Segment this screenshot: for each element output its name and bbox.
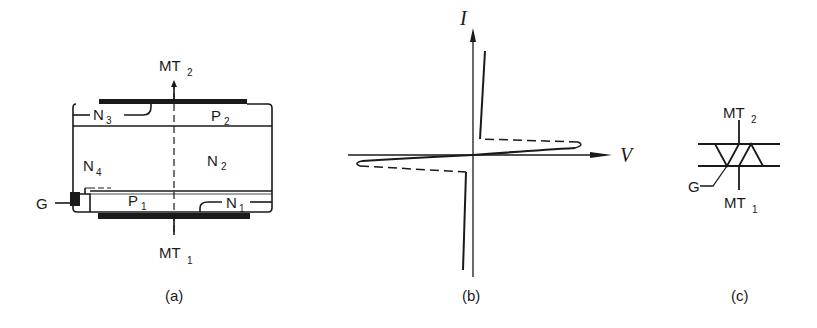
region-p1-sub: 1	[141, 201, 147, 212]
q1-breakover-turn	[575, 142, 581, 148]
region-n1: N	[226, 194, 237, 211]
panel-c-labels: MT 2 MT 1 G (c)	[688, 104, 758, 304]
gate-terminal-line	[700, 166, 727, 186]
region-n3: N	[93, 106, 104, 123]
n1-boundary-left	[200, 202, 222, 212]
triac-figure: MT 2 MT 1 G N 3 P 2 N 4 N 2 P 1 N 1 (a)	[0, 0, 817, 328]
symbol-mt1-sub: 1	[752, 204, 758, 215]
mt2-sub: 2	[187, 67, 193, 78]
region-n2: N	[207, 152, 218, 169]
region-p1: P	[128, 192, 138, 209]
q1-negative-resistance	[480, 139, 578, 142]
q3-negative-resistance	[360, 166, 466, 172]
mt2-label: MT	[159, 57, 181, 74]
mt2-electrode	[99, 99, 247, 104]
region-n4: N	[83, 157, 94, 174]
symbol-mt2-sub: 2	[751, 114, 757, 125]
caption-a: (a)	[165, 287, 183, 304]
v-axis-arrow-icon	[590, 152, 612, 158]
right-diode-triangle	[739, 144, 763, 166]
q1-on-state	[480, 51, 485, 139]
panel-b-iv-curve	[348, 28, 612, 277]
region-p2: P	[211, 107, 221, 124]
gate-contact	[70, 192, 80, 206]
symbol-mt1-label: MT	[724, 194, 746, 211]
gate-label: G	[36, 195, 48, 212]
region-n4-sub: 4	[96, 167, 102, 178]
symbol-gate-label: G	[688, 178, 700, 195]
q1-blocking-curve	[473, 148, 575, 155]
left-diode-triangle	[715, 144, 739, 166]
region-n1-sub: 1	[239, 203, 245, 214]
caption-c: (c)	[731, 287, 749, 304]
region-n2-sub: 2	[221, 161, 227, 172]
mt2-arrow-icon	[171, 80, 177, 87]
q3-breakover-turn	[357, 161, 362, 166]
mt1-sub: 1	[187, 255, 193, 266]
v-axis-label: V	[620, 144, 635, 166]
region-p2-sub: 2	[224, 116, 230, 127]
panel-c-triac-symbol	[698, 120, 780, 190]
mt1-label: MT	[159, 244, 181, 261]
q3-on-state	[463, 172, 466, 270]
i-axis-label: I	[459, 7, 468, 29]
panel-a-labels: MT 2 MT 1 G N 3 P 2 N 4 N 2 P 1 N 1 (a)	[36, 57, 245, 304]
region-n3-sub: 3	[106, 115, 112, 126]
n3-boundary-right	[124, 104, 151, 115]
i-axis-arrow-icon	[470, 28, 476, 42]
caption-b: (b)	[462, 287, 480, 304]
q3-blocking-curve	[362, 155, 473, 161]
gate-p1-boundary	[80, 194, 90, 212]
symbol-mt2-label: MT	[723, 104, 745, 121]
